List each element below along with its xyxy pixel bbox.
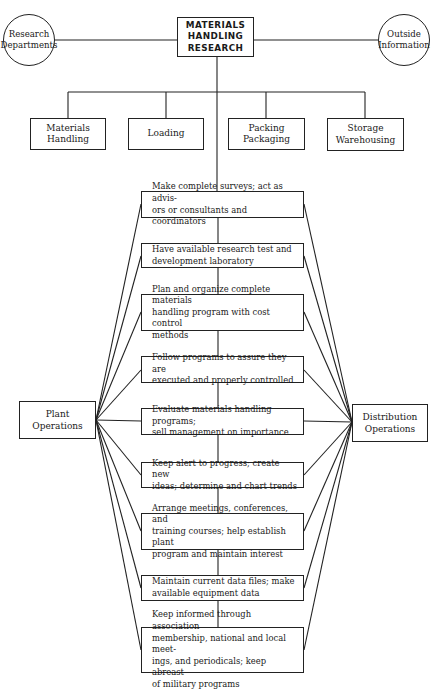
- category-label: Loading: [148, 128, 185, 140]
- category-label: Materials Handling: [46, 123, 90, 146]
- activity-step-8: Maintain current data files; make availa…: [141, 575, 304, 601]
- plant-operations-label: Plant Operations: [32, 408, 82, 432]
- diagram-title: MATERIALS HANDLING RESEARCH: [186, 20, 245, 55]
- activity-label: Maintain current data files; make availa…: [152, 576, 295, 599]
- category-storage-warehousing: Storage Warehousing: [327, 118, 404, 151]
- activity-label: Plan and organize complete materials han…: [152, 284, 297, 342]
- activity-step-6: Keep alert to progress; create new ideas…: [141, 462, 304, 488]
- outside-information-label: Outside Information: [378, 29, 430, 51]
- outside-information-node: Outside Information: [378, 14, 430, 66]
- category-label: Packing Packaging: [243, 123, 290, 146]
- activity-label: Have available research test and develop…: [152, 244, 292, 267]
- plant-operations-node: Plant Operations: [19, 401, 96, 439]
- activity-step-9: Keep informed through association member…: [141, 627, 304, 673]
- activity-label: Evaluate materials handling programs; se…: [152, 404, 297, 439]
- activity-step-2: Have available research test and develop…: [141, 243, 304, 268]
- activity-label: Follow programs to assure they are execu…: [152, 352, 297, 387]
- activity-label: Arrange meetings, conferences, and train…: [152, 503, 297, 561]
- activity-step-4: Follow programs to assure they are execu…: [141, 356, 304, 383]
- materials-handling-research-node: MATERIALS HANDLING RESEARCH: [177, 17, 254, 57]
- activity-step-1: Make complete surveys; act as advis- ors…: [141, 191, 304, 218]
- category-packing-packaging: Packing Packaging: [228, 118, 305, 150]
- research-departments-label: Research Departments: [1, 29, 58, 51]
- research-departments-node: Research Departments: [3, 14, 55, 66]
- activity-step-7: Arrange meetings, conferences, and train…: [141, 513, 304, 550]
- activity-label: Keep alert to progress; create new ideas…: [152, 458, 297, 493]
- activity-step-5: Evaluate materials handling programs; se…: [141, 408, 304, 435]
- activity-label: Make complete surveys; act as advis- ors…: [152, 181, 297, 227]
- activity-label: Keep informed through association member…: [152, 609, 297, 690]
- category-materials-handling: Materials Handling: [30, 118, 106, 150]
- distribution-operations-label: Distribution Operations: [363, 411, 418, 435]
- activity-step-3: Plan and organize complete materials han…: [141, 294, 304, 331]
- category-loading: Loading: [128, 118, 204, 150]
- distribution-operations-node: Distribution Operations: [352, 404, 428, 442]
- category-label: Storage Warehousing: [336, 123, 396, 146]
